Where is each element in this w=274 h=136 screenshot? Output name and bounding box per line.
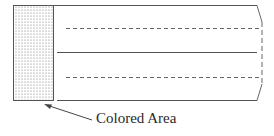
colored-area-label: Colored Area <box>96 110 176 127</box>
pointer-arrow <box>44 104 92 120</box>
colored-area <box>14 6 54 101</box>
torn-right-edge <box>257 6 262 101</box>
